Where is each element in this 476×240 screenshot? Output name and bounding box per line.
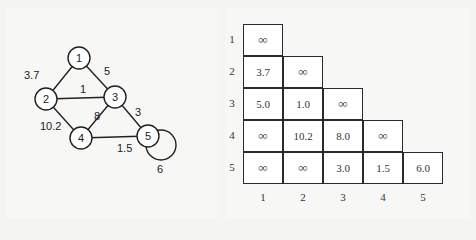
matrix-cell: 8.0 bbox=[323, 120, 363, 152]
edge-weight-labels: 3.75110.2831.56 bbox=[24, 65, 163, 175]
matrix-cell: ∞ bbox=[323, 88, 363, 120]
edge-weight-label: 5 bbox=[104, 65, 110, 77]
column-label: 2 bbox=[296, 191, 310, 203]
column-label: 1 bbox=[256, 191, 270, 203]
graph-node-5: 5 bbox=[137, 125, 159, 147]
graph-node-3: 3 bbox=[104, 86, 126, 108]
matrix-cell: 3.7 bbox=[243, 56, 283, 88]
node-label: 5 bbox=[145, 130, 151, 142]
matrix-cell: 3.0 bbox=[323, 152, 363, 184]
matrix-cell: ∞ bbox=[243, 152, 283, 184]
graph-node-4: 4 bbox=[70, 127, 92, 149]
matrix-cell: 10.2 bbox=[283, 120, 323, 152]
matrix-cell: ∞ bbox=[243, 24, 283, 56]
matrix-cell: ∞ bbox=[283, 56, 323, 88]
matrix-cell: 5.0 bbox=[243, 88, 283, 120]
graph-node-1: 1 bbox=[68, 47, 90, 69]
node-label: 2 bbox=[43, 93, 49, 105]
matrix-cell: 1.0 bbox=[283, 88, 323, 120]
column-label: 3 bbox=[336, 191, 350, 203]
column-label: 5 bbox=[416, 191, 430, 203]
row-label: 4 bbox=[225, 129, 239, 141]
matrix-cell: 1.5 bbox=[363, 152, 403, 184]
column-label: 4 bbox=[376, 191, 390, 203]
matrix-cell: ∞ bbox=[283, 152, 323, 184]
edge-weight-label: 1.5 bbox=[117, 142, 132, 154]
graph-node-2: 2 bbox=[35, 88, 57, 110]
edge-weight-label: 3.7 bbox=[24, 69, 39, 81]
row-label: 5 bbox=[225, 161, 239, 173]
matrix-cell: ∞ bbox=[243, 120, 283, 152]
edge-weight-label: 3 bbox=[135, 106, 141, 118]
node-label: 3 bbox=[112, 91, 118, 103]
edge-weight-label: 1 bbox=[80, 83, 86, 95]
row-label: 1 bbox=[225, 33, 239, 45]
node-label: 4 bbox=[78, 132, 84, 144]
node-label: 1 bbox=[76, 52, 82, 64]
matrix-cell: 6.0 bbox=[403, 152, 443, 184]
row-label: 3 bbox=[225, 97, 239, 109]
row-label: 2 bbox=[225, 65, 239, 77]
edge-weight-label: 10.2 bbox=[40, 120, 61, 132]
edge-weight-label: 8 bbox=[94, 110, 100, 122]
matrix-cell: ∞ bbox=[363, 120, 403, 152]
edge-weight-label: 6 bbox=[157, 163, 163, 175]
